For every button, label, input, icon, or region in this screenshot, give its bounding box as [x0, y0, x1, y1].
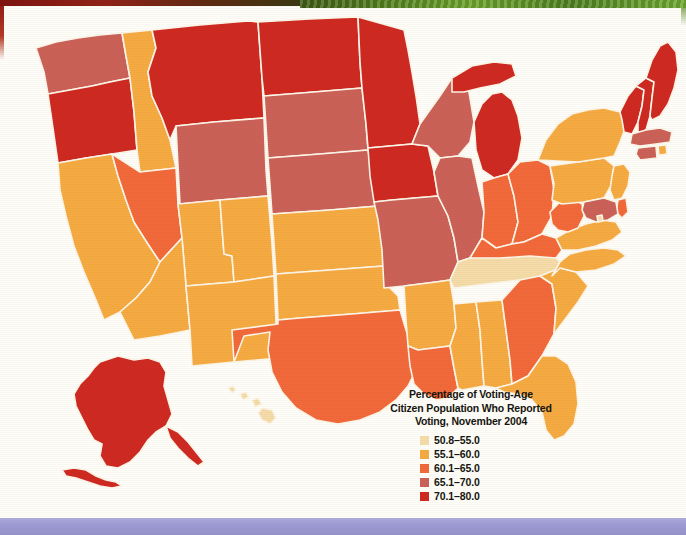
state-alaska-panhandle[interactable] — [166, 426, 204, 466]
legend-item: 55.1–60.0 — [420, 448, 576, 462]
legend-items: 50.8–55.0 55.1–60.0 60.1–65.0 65.1–70.0 … — [366, 434, 576, 504]
state-iowa[interactable] — [368, 144, 438, 202]
state-rhode-island[interactable] — [658, 145, 667, 155]
bottom-color-bar-shade — [0, 518, 686, 535]
state-michigan[interactable] — [474, 92, 522, 178]
page-edge-top-right — [300, 0, 686, 8]
state-wyoming[interactable] — [176, 118, 268, 204]
state-minnesota[interactable] — [358, 17, 420, 148]
legend-item-label: 55.1–60.0 — [434, 448, 480, 460]
legend-item: 65.1–70.0 — [420, 476, 576, 490]
state-alaska-aleutians[interactable] — [62, 468, 122, 488]
state-pennsylvania[interactable] — [550, 158, 614, 204]
state-new-jersey[interactable] — [610, 164, 630, 200]
state-ohio[interactable] — [508, 160, 554, 244]
legend-item: 70.1–80.0 — [420, 490, 576, 504]
map-figure: Percentage of Voting-Age Citizen Populat… — [0, 0, 686, 535]
legend-item-label: 65.1–70.0 — [434, 476, 480, 488]
legend-swatch-icon — [420, 492, 429, 501]
state-nebraska[interactable] — [268, 150, 378, 214]
legend-item-label: 50.8–55.0 — [434, 434, 480, 446]
page-edge-top-left — [0, 0, 300, 6]
state-new-york[interactable] — [538, 108, 626, 162]
state-hawaii[interactable] — [228, 386, 276, 424]
legend-swatch-icon — [420, 464, 429, 473]
state-kansas[interactable] — [272, 206, 384, 274]
bottom-color-bar — [0, 518, 686, 535]
legend-title-line-3: Voting, November 2004 — [366, 415, 576, 429]
map-legend: Percentage of Voting-Age Citizen Populat… — [366, 388, 576, 504]
state-north-dakota[interactable] — [258, 17, 362, 96]
state-alaska[interactable] — [74, 356, 172, 468]
page-edge-left — [0, 0, 4, 60]
legend-item-label: 70.1–80.0 — [434, 490, 480, 502]
legend-title: Percentage of Voting-Age Citizen Populat… — [366, 388, 576, 429]
legend-title-line-1: Percentage of Voting-Age — [366, 388, 576, 402]
legend-swatch-icon — [420, 436, 429, 445]
state-massachusetts[interactable] — [630, 128, 672, 146]
legend-title-line-2: Citizen Population Who Reported — [366, 402, 576, 416]
legend-swatch-icon — [420, 478, 429, 487]
legend-item: 60.1–65.0 — [420, 462, 576, 476]
state-new-mexico[interactable] — [186, 276, 278, 366]
legend-swatch-icon — [420, 450, 429, 459]
state-michigan-upper[interactable] — [452, 62, 516, 92]
legend-item-label: 60.1–65.0 — [434, 462, 480, 474]
legend-item: 50.8–55.0 — [420, 434, 576, 448]
state-connecticut[interactable] — [636, 146, 657, 160]
state-district-of-columbia[interactable] — [597, 215, 603, 222]
state-arkansas[interactable] — [404, 280, 456, 350]
state-south-dakota[interactable] — [264, 88, 368, 158]
state-maine[interactable] — [646, 42, 678, 120]
us-choropleth-map — [0, 0, 686, 520]
